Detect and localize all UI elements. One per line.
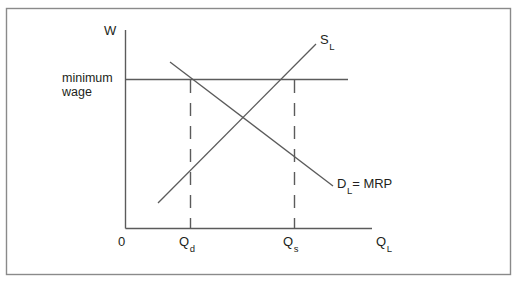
supply-curve [158, 44, 316, 203]
minimum-wage-label-line2: wage [62, 85, 113, 99]
tick-label-qs-subscript: s [293, 243, 298, 254]
supply-curve-label-base: S [320, 32, 329, 47]
diagram-canvas [0, 0, 518, 283]
demand-curve-label-base: D [337, 176, 346, 191]
demand-curve-label-subscript: L [346, 185, 352, 196]
supply-curve-label-subscript: L [329, 41, 335, 52]
demand-curve-label-suffix: = MRP [352, 176, 392, 191]
tick-label-qd-base: Q [179, 234, 189, 249]
y-axis-label: W [104, 24, 116, 39]
x-axis-label-subscript: L [386, 243, 392, 254]
minimum-wage-label: minimum wage [62, 71, 113, 100]
demand-curve-label: DL= MRP [337, 177, 392, 195]
x-axis-label-base: Q [376, 234, 386, 249]
demand-curve [170, 62, 333, 186]
tick-label-qs-base: Q [283, 234, 293, 249]
supply-curve-label: SL [320, 33, 334, 51]
minimum-wage-label-line1: minimum [62, 71, 113, 85]
origin-label: 0 [118, 235, 125, 250]
tick-label-qd: Qd [179, 235, 195, 253]
figure-border [7, 9, 511, 275]
x-axis-label: QL [376, 235, 392, 253]
tick-label-qd-subscript: d [189, 243, 195, 254]
tick-label-qs: Qs [283, 235, 298, 253]
figure-container: W QL SL DL= MRP 0 Qd Qs minimum wage [0, 0, 518, 283]
